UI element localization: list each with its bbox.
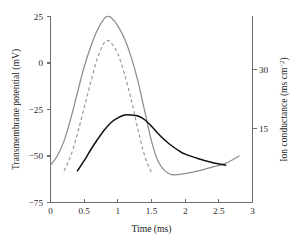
x-tick-1p5: 1.5	[146, 206, 158, 216]
y-left-tick-m50: −50	[29, 151, 44, 161]
axes-spines	[51, 16, 253, 203]
y-axis-left-ticks	[47, 17, 51, 203]
x-axis-ticklabels: 0 0.5 1 1.5 2 2.5 3	[48, 206, 255, 216]
y-axis-right-title-superscript: −2	[278, 61, 285, 68]
x-tick-2: 2	[183, 206, 188, 216]
y-right-tick-30: 30	[259, 65, 269, 75]
x-tick-3: 3	[250, 206, 255, 216]
y-axis-right-ticks	[253, 70, 257, 129]
x-tick-0p5: 0.5	[78, 206, 90, 216]
y-axis-right-title-end: )	[278, 57, 290, 60]
x-tick-0: 0	[48, 206, 53, 216]
x-tick-2p5: 2.5	[213, 206, 225, 216]
curve-action-potential-solid	[51, 16, 240, 175]
y-axis-right-ticklabels: 30 15	[259, 65, 269, 134]
x-axis-ticks	[51, 199, 253, 203]
y-axis-right-title-group: Ion conductance (ms cm−2)	[278, 57, 290, 161]
figure-container: 25 0 −25 −50 −75 30 15 0	[0, 0, 303, 246]
y-left-tick-0: 0	[38, 58, 43, 68]
x-tick-1: 1	[116, 206, 121, 216]
y-left-tick-m75: −75	[29, 198, 44, 208]
x-axis-title: Time (ms)	[132, 223, 172, 235]
y-axis-right-title: Ion conductance (ms cm−2)	[278, 57, 290, 161]
data-curves	[51, 16, 240, 175]
y-left-tick-25: 25	[34, 12, 44, 22]
curve-action-potential-dashed	[64, 41, 152, 173]
y-axis-right-title-main: Ion conductance (ms cm	[278, 67, 290, 162]
y-right-tick-15: 15	[259, 124, 269, 134]
y-left-tick-m25: −25	[29, 105, 44, 115]
chart-canvas: 25 0 −25 −50 −75 30 15 0	[0, 0, 303, 246]
y-axis-left-title: Transmembrane potential (mV)	[10, 49, 22, 170]
y-axis-left-ticklabels: 25 0 −25 −50 −75	[29, 12, 44, 208]
